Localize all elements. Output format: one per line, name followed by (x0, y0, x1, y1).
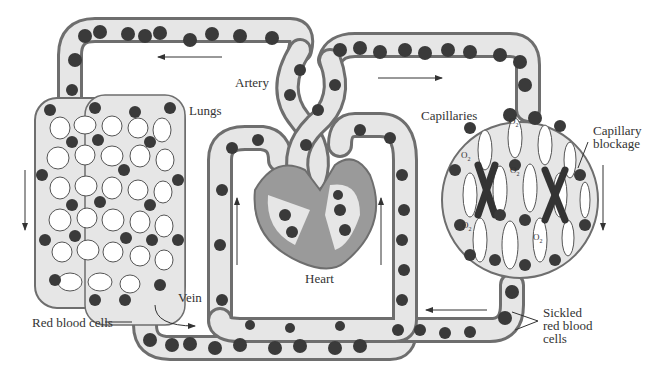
oxygen-label: O2 (462, 218, 472, 237)
label-vein: Vein (178, 290, 202, 305)
label-lungs: Lungs (189, 103, 222, 118)
lungs (35, 95, 185, 325)
capillary-bed (442, 108, 598, 299)
oxygen-label: O2 (510, 163, 520, 182)
label-heart: Heart (305, 271, 334, 286)
label-artery: Artery (235, 75, 269, 90)
label-capillaries: Capillaries (421, 108, 477, 123)
oxygen-label: O2 (533, 230, 543, 249)
oxygen-label: O2 (509, 114, 519, 133)
oxygen-label: O2 (461, 148, 471, 167)
label-capillary-blockage-line2: blockage (593, 136, 640, 151)
label-sickled-line3: cells (543, 331, 567, 346)
label-red-blood-cells: Red blood cells (32, 315, 113, 330)
